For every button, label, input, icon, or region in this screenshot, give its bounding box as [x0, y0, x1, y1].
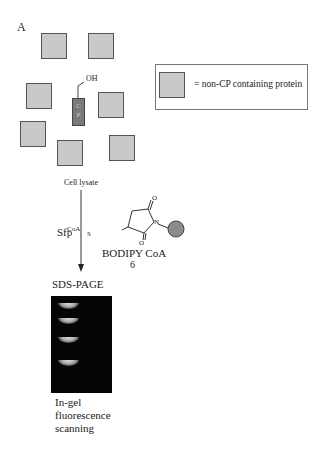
hydroxyl-label: OH — [86, 74, 98, 83]
protein-square — [88, 33, 114, 59]
cp-label-c: C — [73, 102, 84, 111]
bodipy-coa-structure-icon — [100, 188, 190, 248]
carrier-protein: C P — [72, 98, 85, 126]
gel-band — [58, 318, 79, 324]
protein-square — [26, 83, 52, 109]
sds-page-label: SDS-PAGE — [52, 278, 104, 290]
legend-box: = non-CP containing protein — [155, 64, 308, 110]
probe-name: BODIPY CoA — [102, 247, 166, 259]
readout-line: scanning — [55, 422, 111, 435]
oxygen-top-label: O — [152, 194, 157, 202]
sulfur-label: S — [87, 230, 91, 238]
readout-caption: In-gel fluorescence scanning — [55, 396, 111, 435]
protein-square — [41, 33, 67, 59]
probe-number: 6 — [130, 259, 135, 270]
cell-lysate-label: Cell lysate — [64, 178, 98, 187]
protein-square — [109, 135, 135, 161]
oxygen-bottom-label: O — [139, 239, 144, 247]
readout-line: fluorescence — [55, 409, 111, 422]
coa-label: CoA — [67, 225, 80, 233]
cp-label-p: P — [73, 111, 84, 120]
gel-band — [58, 337, 79, 343]
legend-text: = non-CP containing protein — [194, 79, 302, 89]
protein-square — [57, 140, 83, 166]
protein-square — [20, 121, 46, 147]
gel-band — [58, 360, 79, 366]
legend-swatch — [159, 72, 185, 98]
panel-label: A — [17, 20, 26, 35]
readout-line: In-gel — [55, 396, 111, 409]
gel-band — [58, 303, 79, 309]
gel-image — [51, 296, 112, 393]
nitrogen-label: N — [154, 218, 159, 226]
